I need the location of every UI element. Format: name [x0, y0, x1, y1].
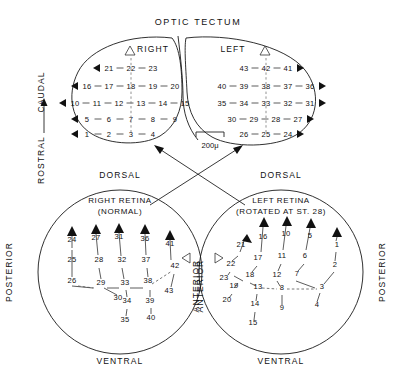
right-retina-title: RIGHT RETINA	[88, 196, 152, 205]
tectum-midline	[178, 36, 198, 140]
figure-title: OPTIC TECTUM	[155, 17, 242, 27]
tectum-number: 31	[306, 99, 315, 108]
retina-cell-number: 4	[315, 300, 319, 309]
tectum-number: 29	[250, 115, 259, 124]
retina-cell-number: 1	[335, 240, 339, 249]
left-retina-posterior-label: POSTERIOR	[377, 242, 387, 302]
left-retina-ventral-label: VENTRAL	[258, 356, 305, 366]
tectum-number-row: 30292827	[228, 115, 314, 124]
tectum-number: 27	[294, 115, 303, 124]
retina-cell-number: 12	[273, 270, 282, 279]
retina-cell-number: 34	[123, 296, 132, 305]
left-tectum-number-rows: 4342414039383736353433323130292827262524	[218, 64, 326, 139]
retina-cell-number: 6	[303, 251, 307, 260]
tectum-axis-caudal-label: CAUDAL	[36, 71, 46, 112]
tectum-number-row: 434241	[240, 64, 304, 73]
retina-cell-number: 16	[259, 232, 268, 241]
retina-cell-number: 21	[237, 240, 246, 249]
retina-cell-number: 24	[68, 235, 77, 244]
retina-cell-number: 3	[320, 282, 324, 291]
right-retina-dorsal-label: DORSAL	[99, 170, 141, 180]
row-arrow-icon	[93, 64, 100, 72]
tectum-number-row: 4039383736	[218, 82, 326, 91]
tectum-number: 17	[105, 82, 114, 91]
tectum-number: 41	[284, 64, 293, 73]
retina-cell-number: 20	[223, 295, 232, 304]
filled-triangle-icon	[259, 217, 269, 227]
retina-cell-number: 23	[220, 273, 229, 282]
retina-cell-number: 33	[121, 278, 130, 287]
retina-cell-number: 19	[230, 281, 239, 290]
tectum-number: 23	[149, 64, 158, 73]
retina-cell-number: 27	[92, 233, 101, 242]
tectum-number: 8	[151, 115, 155, 124]
retina-cell-number: 29	[97, 278, 106, 287]
retina-cell-number: 5	[308, 231, 312, 240]
tectum-number: 5	[85, 115, 89, 124]
tectum-number: 28	[272, 115, 281, 124]
tectum-number-row: 212223	[93, 64, 157, 73]
tectum-number: 26	[240, 130, 249, 139]
tectum-number: 43	[240, 64, 249, 73]
row-arrow-icon	[59, 99, 66, 107]
retina-cell-number: 17	[254, 253, 263, 262]
filled-triangle-icon	[306, 218, 316, 228]
retina-cell-number: 2	[333, 260, 337, 269]
retina-cell-number: 43	[165, 286, 174, 295]
right-retina-subtitle: (NORMAL)	[98, 207, 142, 216]
tectum-number: 36	[306, 82, 315, 91]
diagram-canvas: OPTIC TECTUM RIGHT LEFT CAUDAL ROSTRAL 2…	[0, 0, 396, 372]
row-arrow-icon	[319, 99, 326, 107]
filled-triangle-icon	[140, 224, 150, 234]
tectum-number: 6	[107, 115, 111, 124]
filled-triangle-icon	[282, 216, 292, 226]
tectum-number: 15	[181, 99, 190, 108]
tectum-number: 2	[107, 130, 111, 139]
row-arrow-icon	[297, 130, 304, 138]
tectum-number: 19	[149, 82, 158, 91]
tectum-number: 24	[284, 130, 293, 139]
tectum-number: 10	[71, 99, 80, 108]
left-retina-subtitle: (ROTATED AT ST. 28)	[236, 207, 326, 216]
left-retina-title: LEFT RETINA	[252, 196, 310, 205]
retina-cell-number: 28	[95, 255, 104, 264]
retina-cell-number: 26	[68, 276, 77, 285]
retina-cell-number: 7	[295, 269, 299, 278]
tectum-number: 32	[284, 99, 293, 108]
retina-cell-number: 10	[282, 229, 291, 238]
row-arrow-icon	[319, 82, 326, 90]
retina-cell-number: 11	[278, 251, 286, 260]
retina-cell-number: 35	[121, 315, 130, 324]
retina-cell-number: 32	[118, 255, 127, 264]
tectum-number: 13	[137, 99, 146, 108]
right-retina-posterior-label: POSTERIOR	[4, 242, 14, 302]
retina-cell-number: 38	[144, 276, 153, 285]
tectum-number-row: 56789	[71, 115, 177, 124]
retina-cell-number: 41	[166, 239, 175, 248]
row-arrow-icon	[71, 115, 78, 123]
tectum-number: 16	[83, 82, 92, 91]
right-retina-ventral-label: VENTRAL	[97, 356, 144, 366]
filled-triangle-icon	[332, 227, 342, 237]
retina-cell-number: 15	[249, 318, 258, 327]
scale-bar-label: 200μ	[201, 141, 218, 150]
projection-arrow-right-retina-to-left-tectum	[150, 145, 243, 205]
right-retina-open-triangle-icon	[182, 253, 190, 263]
left-retina-open-triangle-icon	[215, 253, 223, 263]
tectum-number: 40	[218, 82, 227, 91]
retina-cell-number: 14	[251, 299, 260, 308]
tectum-number: 4	[151, 130, 155, 139]
retina-cell-number: 39	[146, 296, 155, 305]
tectum-number: 12	[115, 99, 124, 108]
tectum-number: 34	[240, 99, 249, 108]
tectum-number: 9	[173, 115, 177, 124]
retina-cell-number: 22	[227, 259, 236, 268]
tectum-number: 37	[284, 82, 293, 91]
tectum-number-row: 262524	[240, 130, 304, 139]
left-retina-dorsal-label: DORSAL	[260, 170, 302, 180]
retina-cell-number: 18	[246, 270, 255, 279]
retina-cell-number: 25	[68, 255, 77, 264]
tectum-number: 20	[171, 82, 180, 91]
tectum-number-row: 101112131415	[59, 99, 189, 108]
tectum-number-row: 1617181920	[71, 82, 179, 91]
